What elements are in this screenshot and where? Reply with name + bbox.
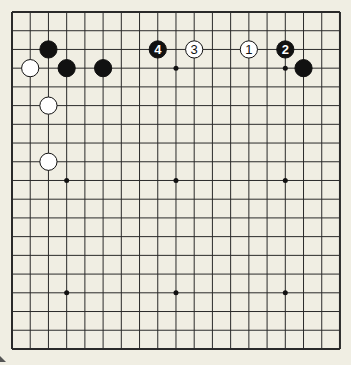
star-point <box>173 290 178 295</box>
white-stone <box>40 153 57 170</box>
corner-mark-icon <box>0 356 6 362</box>
move-number: 3 <box>191 42 198 57</box>
star-point <box>64 178 69 183</box>
star-point <box>283 178 288 183</box>
black-stone: 4 <box>149 41 166 58</box>
white-stone <box>40 97 57 114</box>
move-number: 2 <box>282 42 289 57</box>
star-point <box>64 290 69 295</box>
black-stone <box>295 60 312 77</box>
star-point <box>283 290 288 295</box>
go-board: 4312 <box>0 0 351 365</box>
white-stone: 1 <box>240 41 257 58</box>
black-stone: 2 <box>277 41 294 58</box>
move-number: 1 <box>245 42 252 57</box>
black-stone <box>95 60 112 77</box>
star-point <box>173 66 178 71</box>
star-point <box>283 66 288 71</box>
star-point <box>173 178 178 183</box>
black-stone <box>40 41 57 58</box>
white-stone: 3 <box>186 41 203 58</box>
move-number: 4 <box>154 42 162 57</box>
white-stone <box>22 60 39 77</box>
black-stone <box>58 60 75 77</box>
